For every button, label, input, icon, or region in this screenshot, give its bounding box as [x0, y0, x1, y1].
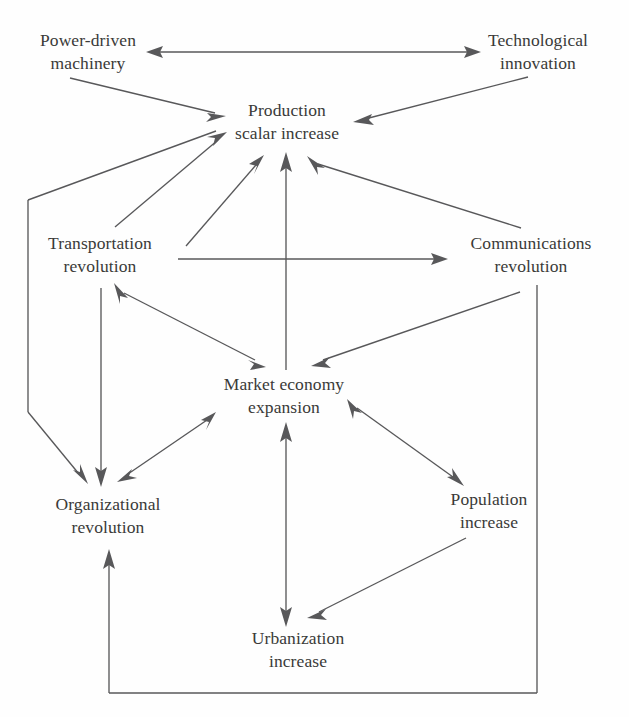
node-market-economy-expansion: Market economy expansion: [224, 373, 344, 419]
edge-production-transportation: [115, 132, 227, 227]
node-production-scalar-increase: Production scalar increase: [235, 99, 339, 145]
node-label-line1: Communications: [471, 233, 592, 253]
node-label-line1: Technological: [488, 30, 588, 50]
node-organizational-revolution: Organizational revolution: [55, 493, 160, 539]
diagram-canvas: Power-driven machinery Technological inn…: [0, 0, 629, 717]
node-label-line1: Urbanization: [252, 628, 345, 648]
edge-market-production-center: [280, 152, 292, 370]
node-label-line2: scalar increase: [235, 122, 339, 145]
edge-transportation-organizational: [95, 288, 107, 487]
edge-communications-production: [307, 156, 521, 228]
node-label-line1: Transportation: [48, 233, 152, 253]
node-power-driven-machinery: Power-driven machinery: [40, 29, 136, 75]
node-communications-revolution: Communications revolution: [471, 232, 592, 278]
node-label-line2: machinery: [40, 52, 136, 75]
node-label-line1: Production: [248, 100, 326, 120]
edge-market-production-left: [186, 155, 264, 246]
edge-technological-production: [353, 77, 528, 125]
edge-transportation-market: [114, 283, 266, 370]
edge-power-production: [70, 78, 226, 122]
edge-production-organizational-left: [28, 131, 216, 484]
node-label-line1: Market economy: [224, 374, 344, 394]
node-population-increase: Population increase: [451, 488, 528, 534]
node-label-line2: revolution: [471, 255, 592, 278]
node-label-line1: Organizational: [55, 494, 160, 514]
node-transportation-revolution: Transportation revolution: [48, 232, 152, 278]
edge-transportation-communications: [178, 253, 448, 265]
node-label-line1: Population: [451, 489, 528, 509]
edge-market-population: [347, 399, 464, 486]
node-urbanization-increase: Urbanization increase: [252, 627, 345, 673]
edge-communications-market: [311, 292, 520, 368]
edge-market-urbanization: [280, 422, 292, 627]
node-label-line2: increase: [451, 511, 528, 534]
node-label-line2: revolution: [48, 255, 152, 278]
node-label-line2: innovation: [488, 52, 588, 75]
node-label-line1: Power-driven: [40, 30, 136, 50]
node-label-line2: revolution: [55, 516, 160, 539]
node-label-line2: expansion: [224, 396, 344, 419]
node-technological-innovation: Technological innovation: [488, 29, 588, 75]
edge-market-organizational: [117, 412, 216, 482]
edge-power-technological: [146, 46, 481, 58]
edge-population-urbanization: [307, 538, 466, 620]
node-label-line2: increase: [252, 650, 345, 673]
